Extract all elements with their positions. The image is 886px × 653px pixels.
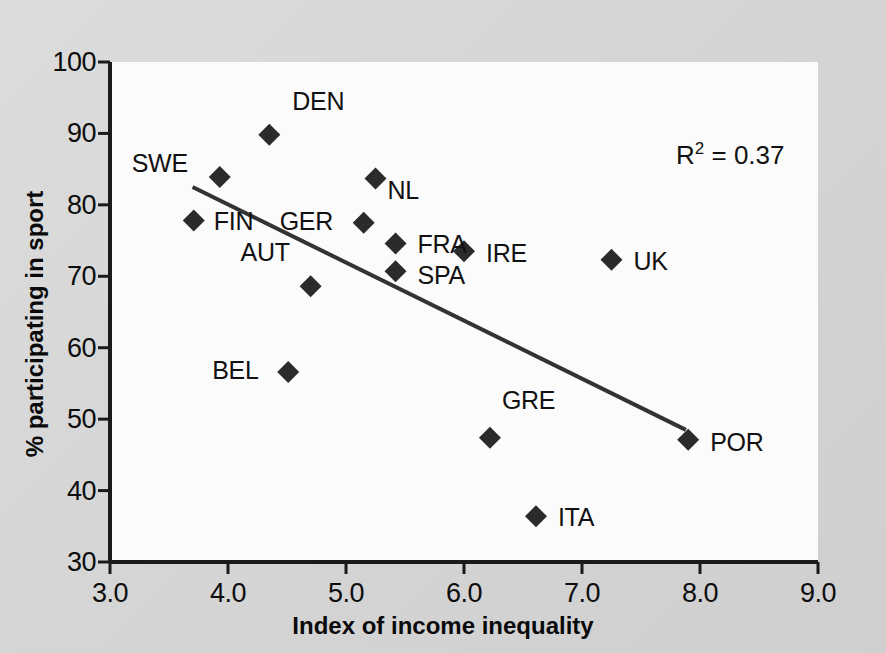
data-point-label-den: DEN	[292, 87, 344, 116]
data-point-marker-fra	[385, 232, 407, 254]
x-tick-label: 5.0	[328, 578, 364, 609]
x-tick-label: 3.0	[92, 578, 128, 609]
chart-figure: 30405060708090100 3.04.05.06.07.08.09.0 …	[0, 0, 886, 653]
data-point-label-gre: GRE	[502, 386, 555, 415]
data-point-marker-ger	[353, 212, 375, 234]
x-axis-title: Index of income inequality	[0, 612, 886, 640]
x-tick-label: 6.0	[446, 578, 482, 609]
data-point-label-bel: BEL	[212, 356, 258, 385]
data-point-marker-gre	[479, 427, 501, 449]
data-point-marker-ita	[525, 505, 547, 527]
data-point-label-ire: IRE	[486, 239, 527, 268]
data-point-marker-fin	[183, 210, 205, 232]
data-point-markers	[183, 124, 699, 527]
x-tick-label: 4.0	[210, 578, 246, 609]
data-point-label-nl: NL	[388, 176, 419, 205]
data-point-label-fra: FRA	[418, 230, 467, 259]
x-tick-label: 9.0	[800, 578, 836, 609]
axis-lines	[110, 62, 818, 562]
data-point-label-ita: ITA	[558, 503, 594, 532]
data-point-label-aut: AUT	[241, 238, 290, 267]
x-tick-label: 7.0	[564, 578, 600, 609]
r-squared-symbol: R	[676, 140, 695, 170]
y-tick-label: 30	[30, 547, 96, 578]
data-point-marker-bel	[277, 361, 299, 383]
data-point-label-fin: FIN	[214, 207, 253, 236]
r-squared-annotation: R2 = 0.37	[676, 139, 784, 171]
data-point-marker-nl	[365, 167, 387, 189]
r-squared-exponent: 2	[695, 139, 704, 158]
data-point-marker-spa	[385, 260, 407, 282]
data-point-marker-aut	[300, 275, 322, 297]
r-squared-value: = 0.37	[704, 140, 784, 170]
data-point-marker-swe	[209, 166, 231, 188]
data-point-label-swe: SWE	[132, 149, 188, 178]
data-point-label-spa: SPA	[418, 261, 465, 290]
data-point-marker-por	[677, 429, 699, 451]
y-tick-label: 100	[30, 47, 96, 78]
data-point-marker-den	[258, 124, 280, 146]
y-axis-title: % participating in sport	[21, 114, 49, 534]
trendline	[193, 187, 686, 430]
data-point-label-uk: UK	[634, 247, 668, 276]
data-point-label-ger: GER	[280, 207, 333, 236]
trendline-segment	[193, 187, 686, 430]
data-point-marker-uk	[601, 249, 623, 271]
x-tick-label: 8.0	[682, 578, 718, 609]
data-point-label-por: POR	[710, 428, 763, 457]
scatter-plot-svg	[0, 0, 886, 653]
